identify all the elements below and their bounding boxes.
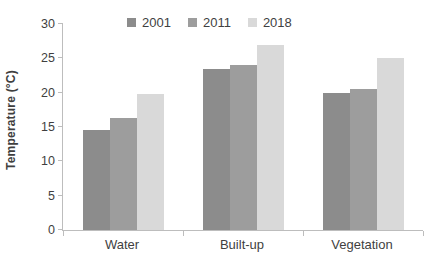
bar-2018-water <box>137 94 164 230</box>
y-tick-label-30: 30 <box>41 17 55 31</box>
bar-2011-water <box>110 118 137 230</box>
bar-2011-built-up <box>230 65 257 230</box>
y-tick-label-0: 0 <box>48 223 55 237</box>
bar-2001-water <box>83 130 110 230</box>
y-tick-mark-15 <box>58 126 63 127</box>
bar-2001-vegetation <box>323 93 350 230</box>
y-tick-mark-0 <box>58 229 63 230</box>
x-tick-mark-2 <box>303 231 304 236</box>
y-tick-mark-5 <box>58 195 63 196</box>
bar-2018-vegetation <box>377 58 404 230</box>
y-tick-mark-25 <box>58 57 63 58</box>
y-tick-mark-10 <box>58 160 63 161</box>
y-tick-mark-30 <box>58 23 63 24</box>
x-tick-mark-1 <box>183 231 184 236</box>
x-tick-mark-0 <box>63 231 64 236</box>
bar-2011-vegetation <box>350 89 377 230</box>
y-tick-label-10: 10 <box>41 154 55 168</box>
bar-group-built-up <box>183 24 303 230</box>
y-tick-label-15: 15 <box>41 120 55 134</box>
x-category-label-water: Water <box>62 237 182 252</box>
y-tick-mark-20 <box>58 92 63 93</box>
x-tick-mark-3 <box>423 231 424 236</box>
bar-groups <box>63 24 423 230</box>
bar-2018-built-up <box>257 45 284 230</box>
bar-chart: Temperature (°C) 200120112018 0510152025… <box>0 0 444 270</box>
y-tick-label-20: 20 <box>41 86 55 100</box>
bar-group-vegetation <box>303 24 423 230</box>
x-category-label-built-up: Built-up <box>182 237 302 252</box>
bar-group-water <box>63 24 183 230</box>
y-tick-label-25: 25 <box>41 51 55 65</box>
plot-area: 051015202530 <box>62 24 423 231</box>
y-tick-label-5: 5 <box>48 189 55 203</box>
y-axis-title: Temperature (°C) <box>4 50 18 190</box>
bar-2001-built-up <box>203 69 230 230</box>
x-axis-category-labels: WaterBuilt-upVegetation <box>62 237 422 252</box>
x-category-label-vegetation: Vegetation <box>302 237 422 252</box>
